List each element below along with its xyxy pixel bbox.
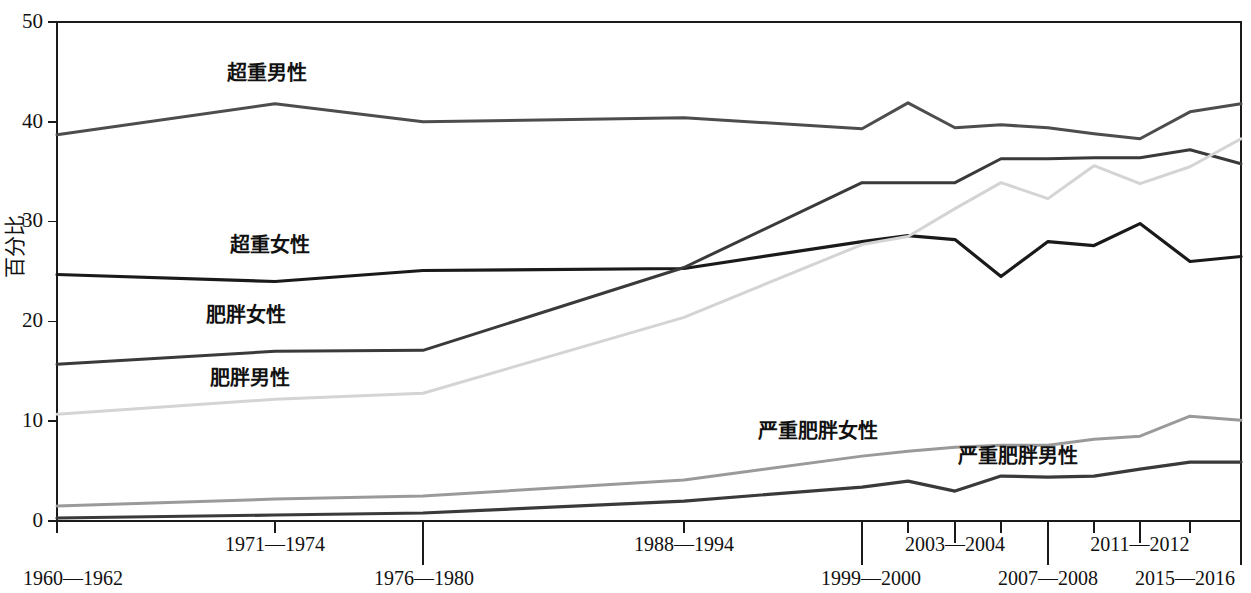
x-tick-label: 1999—2000 — [821, 567, 921, 589]
x-tick-label: 1960—1962 — [23, 567, 123, 589]
series-line-0 — [57, 103, 1241, 139]
y-axis-ticks — [48, 22, 57, 521]
series-label-3: 肥胖男性 — [210, 366, 290, 389]
series-line-2 — [57, 150, 1241, 365]
x-tick-label: 1988—1994 — [634, 533, 734, 555]
series-label-1: 超重女性 — [229, 233, 310, 256]
x-tick-label: 2011—2012 — [1090, 533, 1189, 555]
y-tick-label: 0 — [33, 508, 44, 532]
x-tick-label: 1971—1974 — [225, 533, 325, 555]
x-tick-label: 2007—2008 — [998, 567, 1098, 589]
y-tick-label: 10 — [22, 408, 43, 432]
series-annotations: 超重男性超重女性肥胖女性肥胖男性严重肥胖女性严重肥胖男性 — [206, 61, 1078, 467]
y-tick-label: 40 — [22, 109, 43, 133]
chart-page: 01020304050 百分比 1960—19621971—19741976—1… — [0, 0, 1251, 593]
y-tick-label: 20 — [22, 308, 43, 332]
y-axis-title: 百分比 — [3, 215, 26, 278]
series-line-5 — [57, 462, 1241, 518]
y-axis-title-text: 百分比 — [3, 215, 26, 278]
series-label-0: 超重男性 — [226, 61, 307, 84]
line-chart: 01020304050 百分比 1960—19621971—19741976—1… — [0, 0, 1251, 593]
x-tick-label: 1976—1980 — [374, 567, 474, 589]
x-tick-label: 2015—2016 — [1135, 567, 1235, 589]
x-tick-label: 2003—2004 — [905, 533, 1005, 555]
series-label-5: 严重肥胖男性 — [957, 444, 1078, 467]
series-label-2: 肥胖女性 — [206, 303, 286, 326]
y-tick-label: 50 — [22, 9, 43, 33]
x-axis-tick-labels: 1960—19621971—19741976—19801988—19941999… — [23, 533, 1235, 589]
series-label-4: 严重肥胖女性 — [757, 419, 878, 442]
